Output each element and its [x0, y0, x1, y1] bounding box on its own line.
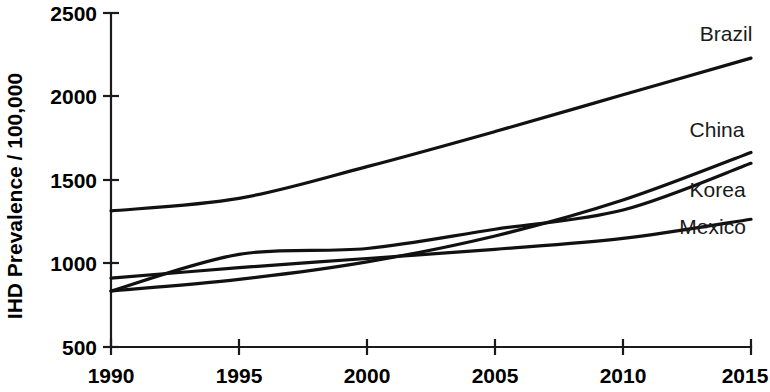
- series-label-china: China: [690, 118, 745, 141]
- x-tick-label-2000: 2000: [344, 364, 391, 387]
- y-tick-label-2000: 2000: [50, 85, 97, 108]
- x-tick-label-2010: 2010: [600, 364, 647, 387]
- y-tick-label-1500: 1500: [50, 169, 97, 192]
- series-label-brazil: Brazil: [700, 22, 753, 45]
- y-tick-label-1000: 1000: [50, 252, 97, 275]
- series-line-korea: [111, 163, 751, 291]
- chart-figure: IHD Prevalence / 100,000 2500 2000 1500 …: [0, 0, 770, 392]
- x-tick-label-1990: 1990: [88, 364, 135, 387]
- y-tick-labels: 2500 2000 1500 1000 500: [50, 2, 97, 359]
- y-axis-title: IHD Prevalence / 100,000: [3, 73, 26, 319]
- x-tick-labels: 1990 1995 2000 2005 2010 2015: [88, 364, 769, 387]
- series-label-layer: BrazilChinaKoreaMexico: [679, 22, 752, 238]
- x-tick-label-2005: 2005: [472, 364, 519, 387]
- x-tick-label-1995: 1995: [216, 364, 263, 387]
- series-label-korea: Korea: [690, 178, 746, 201]
- y-tick-label-500: 500: [62, 336, 97, 359]
- y-tick-label-2500: 2500: [50, 2, 97, 25]
- line-chart-svg: IHD Prevalence / 100,000 2500 2000 1500 …: [0, 0, 770, 392]
- series-label-mexico: Mexico: [679, 215, 746, 238]
- series-layer: [111, 58, 751, 291]
- x-tick-label-2015: 2015: [722, 364, 769, 387]
